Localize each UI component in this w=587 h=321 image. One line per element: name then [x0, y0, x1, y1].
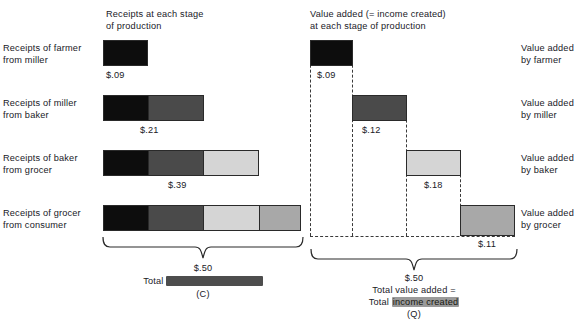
left-panel-brace-caption: Total consumer expenditure [120, 275, 286, 287]
brace-line2-prefix: Total [369, 297, 392, 307]
receipts-total-baker: $.39 [168, 180, 187, 190]
value-added-bar-baker [406, 150, 461, 176]
row-label-receipts-baker: Receipts of baker from grocer [3, 152, 103, 177]
right-panel-brace [308, 248, 520, 274]
bar-segment-grocer [259, 206, 300, 230]
row-label-receipts-miller: Receipts of miller from baker [3, 97, 103, 122]
left-panel-brace-total: $.50 [130, 262, 276, 274]
bar-segment-farmer [104, 151, 148, 175]
staircase-guide-2 [352, 40, 353, 236]
receipts-bar-baker [103, 150, 259, 176]
right-panel-brace-symbol: (Q) [341, 308, 487, 320]
brace-caption-prefix: Total [143, 276, 166, 286]
left-panel-heading: Receipts at each stage of production [106, 8, 306, 33]
receipts-bar-farmer [103, 40, 148, 66]
value-added-amount-baker: $.18 [424, 180, 443, 190]
value-added-amount-miller: $.12 [362, 125, 381, 135]
row-label-value-added-miller: Value added by miller [521, 97, 587, 122]
row-label-receipts-grocer: Receipts of grocer from consumer [3, 207, 103, 232]
receipts-total-miller: $.21 [140, 125, 159, 135]
brace-line2-highlight: income created [392, 297, 459, 307]
bar-segment-miller [148, 151, 203, 175]
left-panel-brace [100, 236, 306, 262]
value-added-bar-miller [352, 95, 407, 121]
row-label-value-added-grocer: Value added by grocer [521, 207, 587, 232]
right-panel-brace-line1: Total value added = [341, 284, 487, 296]
bar-segment-baker [203, 206, 258, 230]
bar-segment-farmer [104, 96, 148, 120]
receipts-bar-miller [103, 95, 204, 121]
bar-segment-baker [203, 151, 258, 175]
right-panel-brace-total: $.50 [341, 272, 487, 284]
value-added-amount-farmer: $.09 [317, 70, 336, 80]
brace-caption-highlight: consumer expenditure [166, 276, 263, 286]
left-panel-brace-symbol: (C) [130, 288, 276, 300]
row-label-value-added-farmer: Value added by farmer [521, 42, 587, 67]
bar-segment-farmer [104, 206, 148, 230]
staircase-baseline [310, 236, 515, 237]
value-added-bar-grocer [460, 205, 515, 236]
value-added-bar-farmer [310, 40, 353, 66]
row-label-value-added-baker: Value added by baker [521, 152, 587, 177]
receipts-total-farmer: $.09 [106, 70, 125, 80]
receipts-bar-grocer [103, 205, 301, 231]
right-panel-brace-line2: Total income created [341, 296, 487, 308]
row-label-receipts-farmer: Receipts of farmer from miller [3, 42, 103, 67]
right-panel-heading: Value added (= income created) at each s… [310, 8, 525, 33]
bar-segment-miller [148, 96, 203, 120]
bar-segment-farmer [104, 41, 147, 65]
staircase-guide-1 [310, 40, 311, 236]
bar-segment-miller [148, 206, 203, 230]
